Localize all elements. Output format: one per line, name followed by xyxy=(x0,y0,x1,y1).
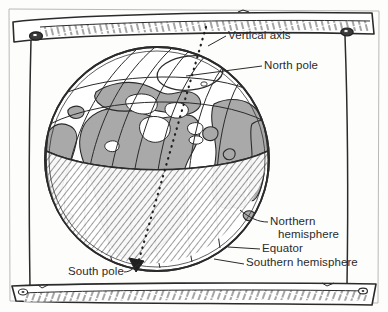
frame-top-beam xyxy=(13,10,374,42)
label-south-pole: South pole xyxy=(68,265,124,278)
frame-right-post xyxy=(345,36,348,286)
frame-left-post xyxy=(29,40,31,288)
leader-southern-hemisphere xyxy=(214,259,244,264)
label-northern-hemisphere-line1: Northern xyxy=(270,215,316,228)
label-north-pole: North pole xyxy=(264,59,318,72)
figure-globe-illustration: Vertical axis North pole Northern hemisp… xyxy=(0,0,388,312)
label-southern-hemisphere: Southern hemisphere xyxy=(246,256,358,269)
bolt-top-right xyxy=(341,28,353,36)
bolt-bottom-left xyxy=(18,289,27,295)
bolt-bottom-right xyxy=(359,288,368,294)
leader-vertical-axis xyxy=(208,36,226,46)
bolt-top-left xyxy=(30,32,43,40)
label-northern-hemisphere-line2: hemisphere xyxy=(278,228,339,241)
globe xyxy=(43,47,270,271)
label-vertical-axis: Vertical axis xyxy=(228,29,291,42)
frame-bottom-beam xyxy=(12,283,376,305)
leader-equator xyxy=(228,247,260,249)
label-equator: Equator xyxy=(262,242,303,255)
